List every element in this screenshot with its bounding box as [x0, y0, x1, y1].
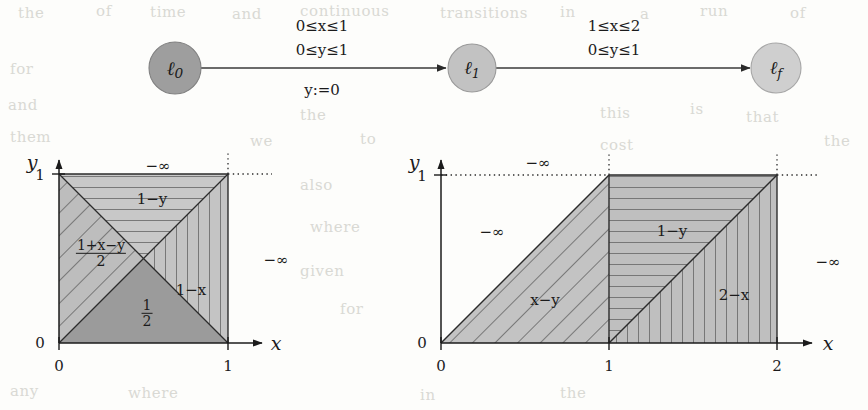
- left-region-bottom-denominator: 2: [142, 314, 153, 329]
- left-region-bottom-numerator: 1: [142, 298, 153, 314]
- right-plot-xlabel: x: [823, 334, 834, 353]
- right-plot-xtick-0: 0: [436, 359, 446, 374]
- left-plot-xlabel: x: [271, 334, 282, 353]
- edge0-assignment: y:=0: [304, 83, 340, 98]
- right-plot-ytick-0: 0: [417, 336, 427, 351]
- figure-canvas: [0, 0, 868, 410]
- right-plot: [434, 151, 820, 350]
- figure-root: theoftimeandcontinuoustransitionsinaruno…: [0, 0, 868, 410]
- right-plot-outside-label-right: −∞: [815, 255, 840, 270]
- right-plot-ytick-1: 1: [417, 169, 427, 184]
- right-plot-outside-label-above: −∞: [525, 156, 550, 171]
- left-plot-ytick-0: 0: [35, 336, 45, 351]
- edge0-guard-y: 0≤y≤1: [296, 43, 349, 58]
- left-region-label-right: 1−x: [176, 283, 207, 298]
- edge1-guard-y: 0≤y≤1: [588, 43, 641, 58]
- left-plot-xtick-0: 0: [54, 359, 64, 374]
- node-label-l0: ℓ0: [167, 59, 184, 81]
- right-region-label-upper: 1−y: [657, 224, 688, 239]
- left-region-label-top: 1−y: [137, 192, 168, 207]
- right-plot-xtick-2: 2: [772, 359, 782, 374]
- left-plot-outside-label-above: −∞: [145, 159, 170, 174]
- left-region-label-left: 1+x−y 2: [76, 238, 126, 268]
- right-region-label-left: x−y: [530, 293, 560, 308]
- left-plot-xtick-1: 1: [223, 359, 233, 374]
- left-plot-ytick-1: 1: [35, 168, 45, 183]
- right-region-label-lower: 2−x: [719, 288, 750, 303]
- left-plot-outside-label-right: −∞: [263, 253, 288, 268]
- edge1-guard-x: 1≤x≤2: [588, 19, 641, 34]
- left-region-left-numerator: 1+x−y: [76, 238, 126, 254]
- right-plot-xtick-1: 1: [604, 359, 614, 374]
- left-region-label-bottom: 1 2: [142, 298, 153, 328]
- right-plot-outside-label-upper-left: −∞: [479, 225, 504, 240]
- left-region-left-denominator: 2: [76, 254, 126, 269]
- node-label-l1: ℓ1: [464, 59, 480, 80]
- right-dotted-guides: [441, 151, 820, 175]
- edge0-guard-x: 0≤x≤1: [296, 19, 349, 34]
- node-label-lf: ℓf: [770, 59, 782, 80]
